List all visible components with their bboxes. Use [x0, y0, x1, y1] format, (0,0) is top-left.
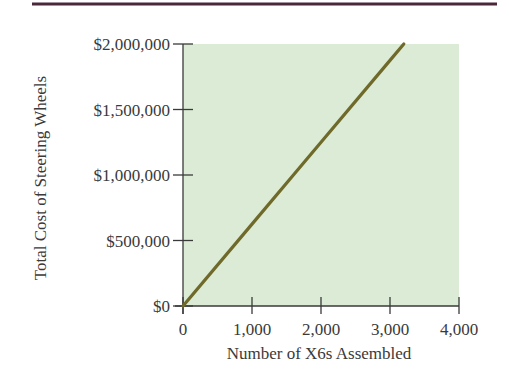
y-tick-label: $0 [153, 297, 170, 316]
x-tick-label: 1,000 [233, 320, 271, 339]
plot-area [183, 44, 459, 306]
line-chart: $0$500,000$1,000,000$1,500,000$2,000,000… [0, 0, 510, 388]
x-axis-title: Number of X6s Assembled [227, 344, 412, 363]
y-tick-label: $1,500,000 [94, 101, 171, 120]
chart: $0$500,000$1,000,000$1,500,000$2,000,000… [0, 0, 510, 388]
y-tick-label: $1,000,000 [94, 166, 171, 185]
y-tick-label: $2,000,000 [94, 35, 171, 54]
x-tick-label: 3,000 [371, 320, 409, 339]
x-tick-label: 2,000 [302, 320, 340, 339]
y-axis: $0$500,000$1,000,000$1,500,000$2,000,000 [94, 35, 194, 316]
x-tick-label: 4,000 [440, 320, 478, 339]
y-axis-title: Total Cost of Steering Wheels [31, 76, 50, 280]
x-tick-label: 0 [179, 320, 188, 339]
y-tick-label: $500,000 [106, 232, 170, 251]
